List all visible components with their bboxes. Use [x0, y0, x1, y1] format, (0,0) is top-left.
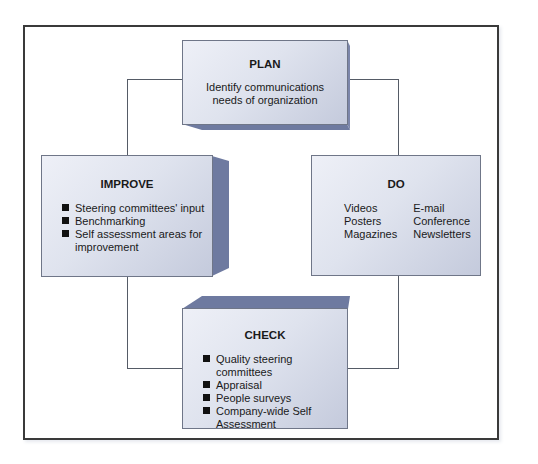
improve-bullet: Self assessment areas for improvement	[62, 228, 212, 254]
do-column-2: E-mail Conference Newsletters	[413, 202, 470, 241]
improve-bevel	[210, 155, 234, 280]
bullet-square-icon	[62, 230, 69, 237]
connector-do-check-h	[348, 368, 399, 369]
do-media-list: Videos Posters Magazines E-mail Conferen…	[344, 202, 471, 241]
check-bullet: People surveys	[203, 392, 349, 405]
improve-title: IMPROVE	[42, 178, 212, 190]
connector-improve-check-h	[127, 368, 183, 369]
plan-title: PLAN	[183, 58, 347, 70]
bullet-square-icon	[203, 381, 210, 388]
check-bullet: Quality steering committees	[203, 353, 349, 379]
check-box: CHECK Quality steering committees Apprai…	[182, 308, 348, 429]
improve-bullets: Steering committees' input Benchmarking …	[62, 202, 212, 254]
connector-improve-check-v	[127, 276, 128, 368]
do-box: DO Videos Posters Magazines E-mail Confe…	[311, 155, 481, 276]
do-title: DO	[312, 178, 480, 190]
check-bullet: Appraisal	[203, 379, 349, 392]
check-bullet: Company-wide Self Assessment	[203, 405, 316, 431]
check-bullets: Quality steering committees Appraisal Pe…	[203, 353, 349, 431]
connector-plan-improve-v	[127, 79, 128, 156]
connector-do-check-v	[398, 275, 399, 368]
plan-description: Identify communications needs of organiz…	[183, 81, 347, 107]
bullet-square-icon	[62, 204, 69, 211]
improve-bullet: Benchmarking	[62, 215, 212, 228]
check-title: CHECK	[183, 329, 347, 341]
improve-box: IMPROVE Steering committees' input Bench…	[41, 155, 213, 277]
bullet-square-icon	[203, 355, 210, 362]
improve-bullet: Steering committees' input	[62, 202, 212, 215]
bullet-square-icon	[62, 217, 69, 224]
bullet-square-icon	[203, 407, 210, 414]
connector-plan-do-v	[398, 79, 399, 155]
do-column-1: Videos Posters Magazines	[344, 202, 397, 241]
bullet-square-icon	[203, 394, 210, 401]
plan-box: PLAN Identify communications needs of or…	[182, 40, 348, 125]
connector-plan-improve-h	[127, 79, 183, 80]
